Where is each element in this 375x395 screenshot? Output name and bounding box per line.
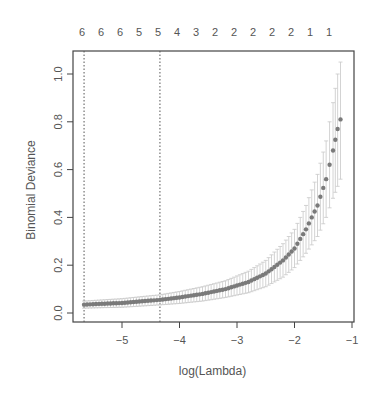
top-axis-label: 4 xyxy=(174,26,180,38)
top-axis-label: 2 xyxy=(231,26,237,38)
data-point xyxy=(307,221,311,225)
data-point xyxy=(331,148,335,152)
y-axis-title: Binomial Deviance xyxy=(24,140,38,239)
top-axis-label: 1 xyxy=(326,26,332,38)
data-point xyxy=(335,127,339,131)
x-axis-title: log(Lambda) xyxy=(0,364,375,378)
top-axis-label: 1 xyxy=(307,26,313,38)
y-tick-label: 0.2 xyxy=(52,258,64,273)
data-point xyxy=(338,117,342,121)
data-point xyxy=(327,163,331,167)
y-tick-label: 0.6 xyxy=(52,162,64,177)
data-point xyxy=(310,215,314,219)
data-point xyxy=(295,241,299,245)
x-tick-label: −5 xyxy=(116,334,129,346)
top-axis-label: 6 xyxy=(98,26,104,38)
data-point xyxy=(298,237,302,241)
data-point xyxy=(301,232,305,236)
data-point xyxy=(318,194,322,198)
plot-frame xyxy=(73,51,354,322)
x-tick-label: −2 xyxy=(288,334,301,346)
data-point xyxy=(315,203,319,207)
data-point xyxy=(324,177,328,181)
y-tick-label: 0.4 xyxy=(52,210,64,225)
y-tick-label: 0.8 xyxy=(52,114,64,129)
x-tick-label: −4 xyxy=(173,334,186,346)
top-axis-label: 6 xyxy=(117,26,123,38)
top-axis-label: 3 xyxy=(193,26,199,38)
top-axis-label: 2 xyxy=(212,26,218,38)
y-tick-label: 1.0 xyxy=(52,66,64,81)
data-point xyxy=(312,209,316,213)
top-axis-label: 2 xyxy=(250,26,256,38)
x-tick-label: −1 xyxy=(346,334,359,346)
top-axis-label: 5 xyxy=(136,26,142,38)
data-point xyxy=(333,138,337,142)
top-axis-label: 6 xyxy=(79,26,85,38)
plot-canvas: −5−4−3−2−10.00.20.40.60.81.0666554322222… xyxy=(0,0,375,395)
top-axis-label: 2 xyxy=(288,26,294,38)
cv-deviance-chart: −5−4−3−2−10.00.20.40.60.81.0666554322222… xyxy=(0,0,375,395)
data-point xyxy=(304,227,308,231)
top-axis-label: 2 xyxy=(269,26,275,38)
data-point xyxy=(321,186,325,190)
top-axis-label: 5 xyxy=(155,26,161,38)
data-point xyxy=(292,246,296,250)
y-tick-label: 0.0 xyxy=(52,305,64,320)
x-tick-label: −3 xyxy=(231,334,244,346)
